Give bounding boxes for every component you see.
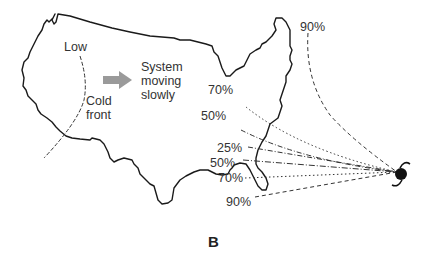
line-70-lower	[245, 172, 397, 178]
gray-arrow-right-icon	[103, 71, 132, 89]
us-map-diagram	[0, 0, 429, 254]
probability-label-70-upper: 70%	[208, 83, 233, 97]
line-50-lower	[243, 160, 397, 172]
probability-label-50-lower: 50%	[210, 156, 235, 170]
system-moving-label: System moving slowly	[141, 60, 183, 102]
cold-front-line	[44, 56, 85, 158]
probability-lines	[241, 33, 397, 197]
line-90-bottom	[255, 172, 397, 197]
low-pressure-label: Low	[64, 40, 87, 54]
probability-label-70-lower: 70%	[218, 171, 243, 185]
panel-label: B	[208, 233, 219, 250]
us-outline	[22, 14, 292, 204]
line-90-top	[308, 33, 397, 172]
probability-label-90-top: 90%	[300, 20, 325, 34]
hurricane-icon	[392, 163, 410, 186]
probability-label-90-bottom: 90%	[226, 195, 251, 209]
probability-label-25: 25%	[217, 141, 242, 155]
line-50-upper	[241, 130, 397, 172]
cold-front-label: Cold front	[86, 94, 112, 122]
line-25	[248, 147, 397, 172]
probability-label-50-upper: 50%	[201, 109, 226, 123]
